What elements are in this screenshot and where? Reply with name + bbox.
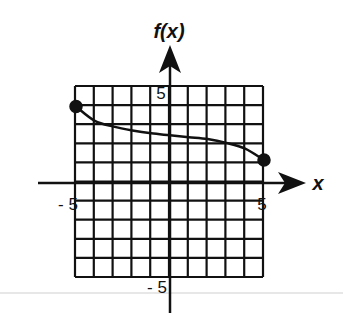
x-axis — [38, 172, 306, 194]
y-tick-bottom-label: - 5 — [147, 278, 167, 297]
x-tick-left-label: - 5 — [58, 195, 78, 214]
function-graph: f(x) x 5 - 5 - 5 5 — [0, 0, 343, 313]
right-endpoint-dot — [258, 154, 270, 166]
y-axis-title: f(x) — [153, 20, 184, 42]
y-tick-top-label: 5 — [156, 84, 165, 103]
left-endpoint-dot — [70, 101, 82, 113]
x-tick-right-label: 5 — [257, 195, 266, 214]
x-axis-title: x — [311, 172, 324, 194]
